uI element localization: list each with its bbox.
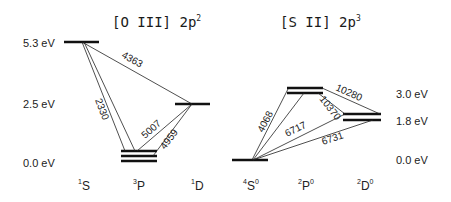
oiii-energy-label-mid: 2.5 eV	[23, 98, 55, 110]
label-2330: 2330	[93, 97, 111, 122]
label-10370: 10370	[317, 93, 343, 122]
oiii-energy-label-high: 5.3 eV	[23, 37, 55, 49]
sii-energy-label-mid: 1.8 eV	[396, 115, 428, 127]
term-1S: 1S	[78, 178, 90, 193]
oiii-title: [O III] 2p2	[112, 14, 201, 30]
sii-title: [S II] 2p3	[280, 14, 361, 30]
transition-6731	[253, 120, 373, 160]
sii-panel: [S II] 2p3 3.0 eV 1.8 eV 0.0 eV 4068 671…	[232, 14, 428, 193]
oiii-panel: [O III] 2p2 5.3 eV 2.5 eV 0.0 eV 4363 23…	[23, 14, 210, 193]
label-4363: 4363	[120, 49, 145, 70]
term-2D0: 2D0	[357, 178, 374, 193]
oiii-energy-label-ground: 0.0 eV	[23, 157, 55, 169]
label-4068: 4068	[255, 109, 275, 134]
term-2P0: 2P0	[298, 178, 314, 193]
label-6717: 6717	[283, 119, 308, 139]
term-3P: 3P	[133, 178, 145, 193]
sii-energy-label-ground: 0.0 eV	[396, 154, 428, 166]
term-4S0: 4S0	[243, 178, 259, 193]
label-5007: 5007	[139, 117, 163, 140]
sii-energy-label-high: 3.0 eV	[396, 88, 428, 100]
label-6731: 6731	[320, 129, 345, 146]
energy-level-diagram: [O III] 2p2 5.3 eV 2.5 eV 0.0 eV 4363 23…	[0, 0, 451, 202]
term-1D: 1D	[191, 178, 204, 193]
